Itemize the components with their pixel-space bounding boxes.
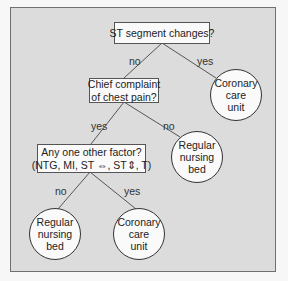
- node-text: Any one other factor?: [41, 146, 141, 159]
- outcome-text: nursing: [38, 228, 72, 240]
- outcome-text: care: [226, 89, 246, 101]
- edge-label-root-yes: yes: [197, 55, 213, 67]
- edge-label-chest-yes: yes: [91, 120, 107, 132]
- node-st-segment-changes: ST segment changes?: [114, 22, 210, 44]
- outcome-text: unit: [131, 240, 148, 252]
- edge-label-chest-no: no: [163, 120, 175, 132]
- edge-label-factor-no: no: [55, 185, 67, 197]
- edge-label-factor-yes: yes: [124, 185, 140, 197]
- node-text: Chief complaint: [88, 78, 160, 91]
- node-text: of chest pain?: [91, 91, 156, 104]
- outcome-text: nursing: [180, 151, 214, 163]
- outcome-text: bed: [46, 240, 64, 252]
- outcome-regular-nursing-bed-mid: Regular nursing bed: [171, 131, 223, 183]
- outcome-text: Regular: [179, 139, 216, 151]
- node-other-factor: Any one other factor? (NTG, MI, ST ⇔, ST…: [37, 144, 146, 173]
- node-text: (NTG, MI, ST ⇔, ST⇕, T): [32, 159, 151, 172]
- outcome-text: care: [129, 228, 149, 240]
- outcome-text: Regular: [37, 216, 74, 228]
- node-text: ST segment changes?: [110, 27, 215, 40]
- outcome-regular-nursing-bed-bottom: Regular nursing bed: [29, 208, 81, 260]
- node-chest-pain: Chief complaint of chest pain?: [89, 78, 159, 103]
- outcome-coronary-care-unit-top: Coronary care unit: [210, 69, 262, 121]
- outcome-text: bed: [188, 163, 206, 175]
- outcome-text: unit: [228, 101, 245, 113]
- outcome-text: Coronary: [214, 77, 257, 89]
- outcome-text: Coronary: [117, 216, 160, 228]
- outcome-coronary-care-unit-bottom: Coronary care unit: [113, 208, 165, 260]
- edge-label-root-no: no: [129, 55, 141, 67]
